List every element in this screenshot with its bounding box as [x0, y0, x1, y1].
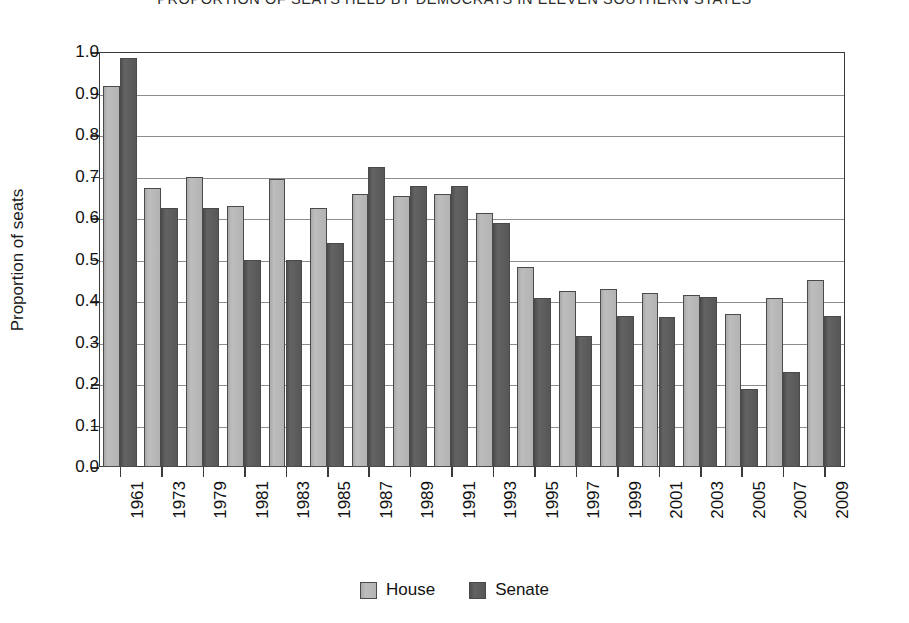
x-tick-mark: [493, 467, 495, 477]
y-tick-label: 0.5: [43, 250, 99, 270]
bar-house-1993: [476, 213, 493, 467]
bar-senate-1997: [576, 336, 593, 467]
bar-senate-1999: [617, 316, 634, 467]
bar-senate-1983: [286, 260, 303, 468]
x-tick-mark: [617, 467, 619, 477]
y-tick-label: 0.3: [43, 333, 99, 353]
bar-senate-1993: [493, 223, 510, 467]
x-tick-label: 1997: [584, 481, 604, 519]
x-tick-label: 2003: [708, 481, 728, 519]
x-tick-mark: [576, 467, 578, 477]
bar-house-1985: [310, 208, 327, 467]
bar-house-1999: [600, 289, 617, 467]
legend-swatch-senate: [469, 582, 486, 599]
bar-senate-2005: [741, 389, 758, 467]
chart-legend: HouseSenate: [0, 580, 909, 600]
x-tick-mark: [286, 467, 288, 477]
x-tick-mark: [410, 467, 412, 477]
bar-house-1973: [144, 188, 161, 467]
x-tick-label: 1999: [626, 481, 646, 519]
bar-house-1997: [559, 291, 576, 467]
y-tick-label: 0.4: [43, 291, 99, 311]
bar-house-2009: [807, 280, 824, 467]
y-tick-label: 0.0: [43, 457, 99, 477]
x-tick-label: 2009: [833, 481, 853, 519]
y-tick-label: 1.0: [43, 42, 99, 62]
bar-house-1995: [517, 267, 534, 467]
bar-house-1989: [393, 196, 410, 467]
bar-house-1987: [352, 194, 369, 467]
x-tick-label: 1995: [543, 481, 563, 519]
x-tick-label: 1981: [253, 481, 273, 519]
legend-label-senate: Senate: [495, 580, 549, 600]
x-tick-mark: [368, 467, 370, 477]
x-tick-label: 1993: [501, 481, 521, 519]
x-tick-mark: [534, 467, 536, 477]
x-tick-mark: [700, 467, 702, 477]
x-tick-label: 2005: [750, 481, 770, 519]
bar-senate-1961: [120, 58, 137, 467]
bar-house-2001: [642, 293, 659, 467]
y-tick-label: 0.7: [43, 167, 99, 187]
x-tick-mark: [327, 467, 329, 477]
bar-senate-2007: [783, 372, 800, 467]
bar-house-1981: [227, 206, 244, 467]
x-tick-mark: [203, 467, 205, 477]
x-tick-mark: [451, 467, 453, 477]
y-tick-label: 0.2: [43, 374, 99, 394]
bar-senate-1985: [327, 243, 344, 468]
legend-item-house[interactable]: House: [360, 580, 435, 600]
bar-senate-2009: [824, 316, 841, 467]
bar-house-2005: [725, 314, 742, 467]
bar-house-1983: [269, 179, 286, 467]
bar-senate-1979: [203, 208, 220, 467]
x-tick-label: 1989: [418, 481, 438, 519]
x-tick-label: 1979: [211, 481, 231, 519]
bar-senate-1989: [410, 186, 427, 467]
y-tick-label: 0.9: [43, 84, 99, 104]
x-tick-mark: [783, 467, 785, 477]
x-tick-label: 2001: [667, 481, 687, 519]
bar-senate-2001: [659, 317, 676, 467]
x-tick-mark: [824, 467, 826, 477]
x-tick-label: 1991: [460, 481, 480, 519]
x-tick-label: 1973: [170, 481, 190, 519]
x-tick-label: 1987: [377, 481, 397, 519]
legend-swatch-house: [360, 582, 377, 599]
x-tick-label: 2007: [791, 481, 811, 519]
bar-senate-1995: [534, 298, 551, 467]
bar-senate-1981: [244, 260, 261, 468]
bar-senate-1973: [161, 208, 178, 467]
x-tick-mark: [161, 467, 163, 477]
x-tick-label: 1983: [294, 481, 314, 519]
bar-house-1961: [103, 86, 120, 467]
x-tick-mark: [244, 467, 246, 477]
y-tick-label: 0.8: [43, 125, 99, 145]
x-tick-label: 1961: [128, 481, 148, 519]
bars-layer: [99, 52, 845, 467]
bar-senate-2003: [700, 297, 717, 467]
bar-house-2007: [766, 298, 783, 467]
x-tick-mark: [120, 467, 122, 477]
bar-house-2003: [683, 295, 700, 467]
chart-title: PROPORTION OF SEATS HELD BY DEMOCRATS IN…: [0, 0, 909, 7]
y-axis-ticks: 1.00.90.80.70.60.50.40.30.20.10.0: [0, 0, 99, 623]
legend-label-house: House: [386, 580, 435, 600]
x-tick-label: 1985: [335, 481, 355, 519]
bar-senate-1987: [368, 167, 385, 467]
y-tick-label: 0.1: [43, 416, 99, 436]
x-tick-mark: [659, 467, 661, 477]
y-tick-label: 0.6: [43, 208, 99, 228]
legend-item-senate[interactable]: Senate: [469, 580, 549, 600]
bar-senate-1991: [451, 186, 468, 467]
bar-house-1991: [434, 194, 451, 467]
x-tick-mark: [741, 467, 743, 477]
bar-house-1979: [186, 177, 203, 467]
